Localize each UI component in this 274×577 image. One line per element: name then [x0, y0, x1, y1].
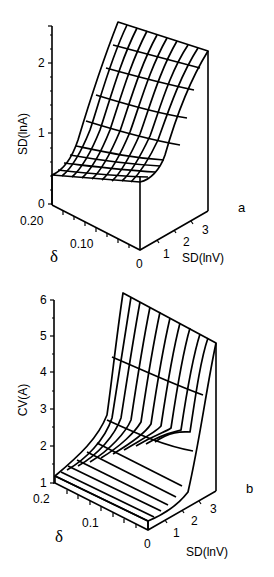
panel-a: 0 1 2 SD(lnA) 0.20 0.10 δ 0 1 2	[16, 22, 246, 271]
delta-ticks-b	[67, 490, 136, 528]
figure: 0 1 2 SD(lnA) 0.20 0.10 δ 0 1 2	[0, 0, 274, 577]
panel-label-a: a	[238, 200, 246, 215]
sdlnv-axis-label-a: SD(lnV)	[182, 251, 224, 265]
z-tick-label: 3	[40, 402, 47, 416]
z-tick-label: 1	[40, 476, 47, 490]
delta-tick-label: 0.10	[70, 237, 94, 251]
panel-b: 1 2 3 4 5 6 CV(A) 0.2 0.1 δ 0	[16, 293, 253, 559]
z-tick-label: 2	[40, 439, 47, 453]
sdlnv-axis-label-b: SD(lnV)	[186, 545, 228, 559]
surface-mesh-a	[52, 22, 208, 182]
sdlnv-tick-label: 1	[173, 526, 180, 540]
sdlnv-tick-label: 0	[144, 537, 151, 551]
sdlnv-tick-label: 1	[163, 247, 170, 261]
z-tick-label: 1	[38, 126, 45, 140]
z-tick-label: 4	[40, 365, 47, 379]
delta-axis-label-a: δ	[50, 247, 58, 266]
delta-tick-label: 0.2	[33, 492, 50, 506]
delta-tick-label: 0.1	[82, 516, 99, 530]
delta-tick-label: 0.20	[20, 214, 44, 228]
z-tick-label: 5	[40, 329, 47, 343]
z-tick-label: 0	[38, 197, 45, 211]
sdlnv-tick-label: 3	[202, 223, 209, 237]
sdlnv-tick-label: 3	[210, 502, 217, 516]
delta-axis-label-b: δ	[55, 527, 63, 546]
z-axis-label-a: SD(lnA)	[16, 113, 30, 155]
sdlnv-tick-label: 2	[183, 235, 190, 249]
z-tick-label: 6	[40, 293, 47, 307]
panel-label-b: b	[246, 481, 253, 496]
sdlnv-tick-label: 0	[136, 257, 143, 271]
sdlnv-tick-label: 2	[191, 514, 198, 528]
z-tick-label: 2	[38, 56, 45, 70]
z-axis-label-b: CV(A)	[16, 384, 30, 417]
